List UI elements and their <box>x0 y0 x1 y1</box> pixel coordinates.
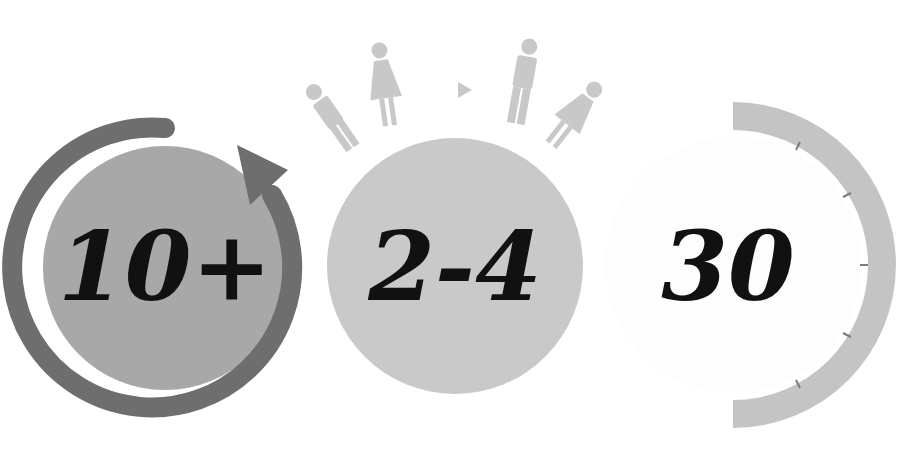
value-time: 30 <box>661 210 795 323</box>
infographic: 10+ <box>0 0 913 464</box>
people-group-icon <box>302 37 612 155</box>
value-repeat: 10+ <box>58 210 272 323</box>
item-time: 30 <box>605 102 896 428</box>
play-marker-icon <box>458 82 472 98</box>
item-repeat: 10+ <box>12 127 292 407</box>
value-people: 2-4 <box>367 210 541 323</box>
item-people: 2-4 <box>302 37 612 394</box>
